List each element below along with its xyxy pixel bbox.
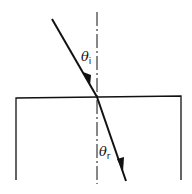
incident-arrowhead	[83, 72, 91, 86]
incident-angle-label: θi	[81, 49, 91, 66]
refracted-angle-label: θr	[99, 144, 111, 161]
refraction-diagram: θi θr	[0, 0, 192, 194]
diagram-canvas: θi θr	[0, 0, 192, 194]
surface-boundary	[16, 96, 181, 180]
refracted-arrowhead	[117, 157, 124, 172]
